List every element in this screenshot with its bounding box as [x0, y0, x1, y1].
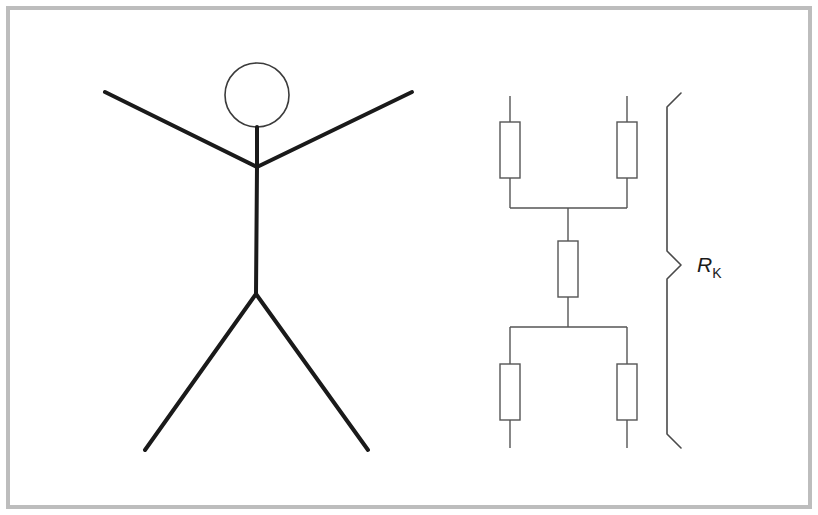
- resistor-top-left: [500, 122, 520, 178]
- resistance-symbol: R: [697, 253, 712, 276]
- technical-figure: RK: [0, 0, 818, 515]
- resistor-top-right: [617, 122, 637, 178]
- figure-container: RK: [0, 0, 818, 515]
- stick-figure-torso: [256, 167, 257, 294]
- resistor-middle: [558, 241, 578, 297]
- resistor-bottom-right: [617, 364, 637, 420]
- resistance-subscript: K: [712, 265, 722, 281]
- page-background: [0, 0, 818, 515]
- resistor-bottom-left: [500, 364, 520, 420]
